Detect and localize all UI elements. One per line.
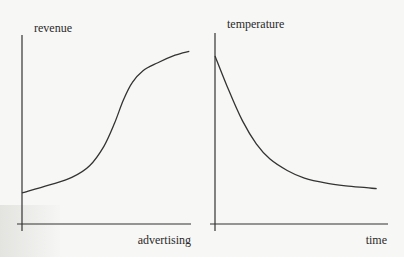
figure: revenue advertising temperature time	[0, 0, 404, 257]
x-axis-label: time	[366, 233, 387, 247]
series-line	[22, 51, 189, 193]
series-line	[215, 56, 377, 189]
chart-temperature-vs-time: temperature time	[210, 17, 388, 247]
y-axis-label: revenue	[34, 21, 72, 35]
chart-revenue-vs-advertising: revenue advertising	[17, 21, 191, 247]
x-axis-label: advertising	[138, 233, 191, 247]
y-axis-label: temperature	[227, 17, 284, 31]
